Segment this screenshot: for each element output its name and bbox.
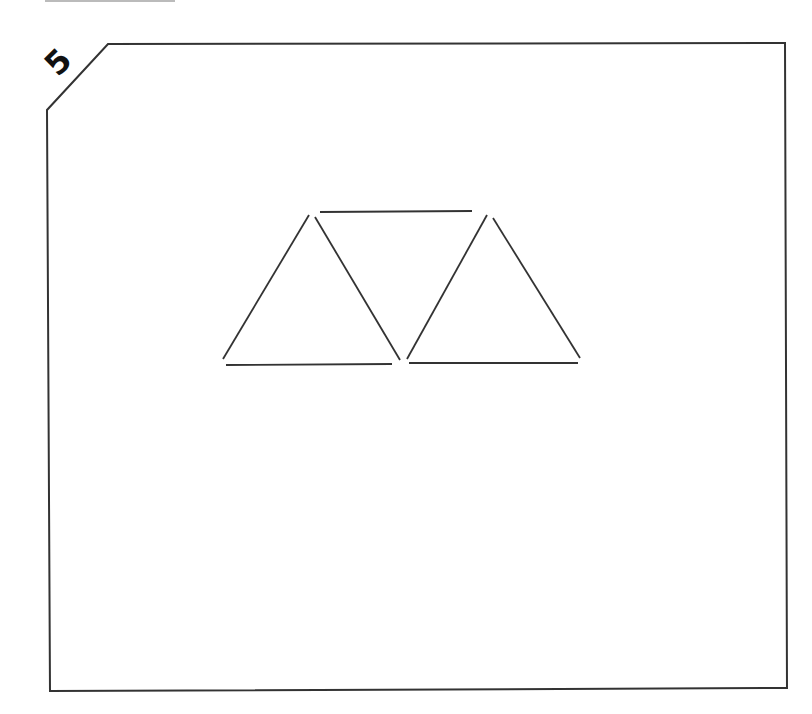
matchstick-group	[223, 211, 580, 365]
puzzle-frame	[47, 43, 787, 691]
matchstick-left-tri-bottom[interactable]	[226, 364, 392, 365]
matchstick-top-bar[interactable]	[320, 211, 472, 212]
matchstick-left-tri-left[interactable]	[223, 215, 309, 359]
puzzle-canvas	[0, 0, 812, 714]
matchstick-right-tri-left[interactable]	[407, 215, 487, 359]
matchstick-right-tri-right[interactable]	[493, 218, 580, 358]
matchstick-left-tri-right[interactable]	[315, 217, 400, 360]
